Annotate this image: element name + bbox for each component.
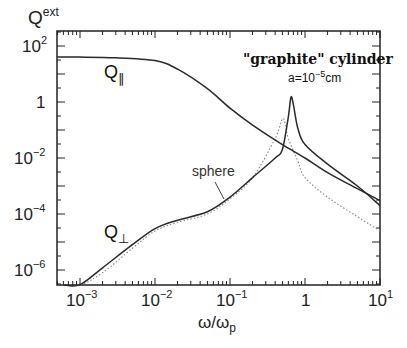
x-axis-title: ω/ωp — [198, 313, 236, 335]
sphere-label: sphere — [192, 163, 235, 179]
y-axis-title: Qext — [28, 5, 59, 28]
chart-canvas: 102 1 10−2 10−4 10−6 10−3 10−2 10−1 1 10… — [0, 0, 407, 348]
x-tick-label-1e-3: 10−3 — [66, 288, 97, 310]
x-tick-label-1: 1 — [301, 291, 310, 310]
q-par-label: Q∥ — [104, 62, 125, 86]
y-tick-label-1e-6: 10−6 — [14, 258, 45, 280]
y-tick-label-1e2: 102 — [22, 34, 47, 56]
sphere-label-leader — [215, 182, 224, 199]
x-tick-label-1e-1: 10−1 — [216, 288, 247, 310]
y-tick-label-1e-4: 10−4 — [14, 202, 45, 224]
chart-subtitle: a=10−5cm — [288, 69, 341, 85]
y-tick-label-1e-2: 10−2 — [14, 146, 45, 168]
y-tick-label-1: 1 — [36, 93, 45, 112]
x-tick-label-1e1: 101 — [368, 288, 393, 310]
y-tick-labels: 102 1 10−2 10−4 10−6 — [14, 34, 47, 280]
q-perp-curve — [63, 97, 380, 286]
x-tick-labels: 10−3 10−2 10−1 1 101 — [66, 288, 393, 310]
chart-title: "graphite" cylinder — [243, 51, 394, 67]
x-tick-label-1e-2: 10−2 — [141, 288, 172, 310]
q-perp-label: Q⊥ — [104, 222, 129, 246]
